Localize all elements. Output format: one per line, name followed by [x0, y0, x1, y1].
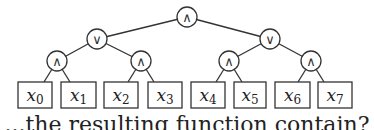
gate-or-left: ∨ [87, 29, 107, 49]
gate-and-r2: ∧ [301, 51, 321, 71]
leaf-x0: x0 [18, 82, 52, 108]
or-symbol: ∨ [265, 32, 275, 47]
or-symbol: ∨ [92, 32, 102, 47]
and-symbol: ∧ [224, 54, 234, 69]
leaf-x5: x5 [234, 82, 266, 108]
edge-root-orleft [97, 17, 187, 39]
leaf-x3: x3 [148, 82, 182, 108]
leaf-x4: x4 [191, 82, 225, 108]
leaf-x2: x2 [104, 82, 138, 108]
leaf-x6: x6 [275, 82, 310, 108]
gate-and-r1: ∧ [219, 51, 239, 71]
circuit-diagram: ∧ ∨ ∨ ∧ ∧ ∧ ∧ x0 x1 x2 x3 x4 [0, 0, 374, 130]
and-symbol: ∧ [52, 54, 62, 69]
gate-or-right: ∨ [260, 29, 280, 49]
and-symbol: ∧ [182, 10, 192, 25]
leaf-x7: x7 [318, 82, 352, 108]
and-symbol: ∧ [136, 54, 146, 69]
question-caption: ...the resulting function contain? [0, 112, 374, 130]
leaf-x1: x1 [61, 82, 96, 108]
and-symbol: ∧ [306, 54, 316, 69]
gate-and-l1: ∧ [47, 51, 67, 71]
gate-and-l2: ∧ [131, 51, 151, 71]
gate-and-root: ∧ [177, 7, 197, 27]
edge-root-orright [187, 17, 270, 39]
